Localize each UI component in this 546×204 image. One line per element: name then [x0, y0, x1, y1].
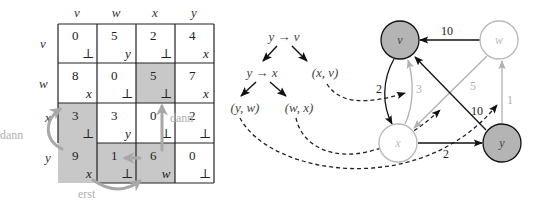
- cell-pred: ⊥: [199, 166, 211, 181]
- edge-x-v-weight: 3: [416, 82, 422, 96]
- node-x: x: [379, 124, 417, 162]
- cell-dist: 0: [72, 28, 79, 43]
- row-header-y: y: [43, 150, 51, 165]
- edge-y-v-weight: 10: [471, 104, 483, 118]
- cell-dist: 2: [150, 28, 157, 43]
- node-y-label: y: [498, 136, 505, 150]
- graph: 10 2 3 5 1 10 2 v w x y: [376, 21, 521, 162]
- figure: v w x y v w x y 0 ⊥ 5 y 2 ⊥ 4 x 8 x 0 ⊥: [0, 0, 546, 204]
- edge-v-x-weight: 2: [376, 82, 382, 96]
- cell-pred: ⊥: [82, 46, 94, 61]
- node-v: v: [381, 21, 419, 59]
- tree-left-child: y → x: [244, 65, 277, 80]
- tree-right-leaf: (x, v): [312, 65, 339, 80]
- cell-pred: x: [202, 86, 209, 101]
- col-header-v: v: [74, 5, 80, 20]
- node-y: y: [483, 124, 521, 162]
- cell-pred: x: [85, 166, 92, 181]
- edge-x-v: [405, 60, 412, 124]
- col-header-w: w: [112, 5, 121, 20]
- cell-pred: x: [85, 86, 92, 101]
- tree-edge: [263, 46, 277, 61]
- cell-dist: 5: [150, 68, 157, 83]
- edge-y-w-weight: 1: [507, 93, 513, 107]
- edge-v-x: [385, 59, 394, 124]
- cell-dist: 9: [72, 148, 79, 163]
- node-w-label: w: [495, 33, 503, 47]
- cell-dist: 0: [189, 148, 196, 163]
- cell-dist: 8: [72, 68, 79, 83]
- node-x-label: x: [394, 136, 401, 150]
- right-dann-label: dann: [170, 111, 193, 125]
- tree-leaf-yw: (y, w): [231, 100, 260, 115]
- cell-dist: 0: [150, 108, 157, 123]
- col-header-x: x: [151, 5, 158, 20]
- edge-w-x-weight: 5: [470, 79, 476, 93]
- cell-pred: ⊥: [121, 166, 133, 181]
- cell-pred: y: [123, 126, 131, 141]
- dashed-map-xv: [327, 84, 405, 101]
- cell-dist: 5: [111, 28, 118, 43]
- cell-pred: ⊥: [160, 46, 172, 61]
- cell-pred: y: [123, 46, 131, 61]
- cell-pred: ⊥: [121, 86, 133, 101]
- cell-dist: 3: [72, 108, 79, 123]
- decomposition-tree: y → v y → x (x, v) (y, w) (w, x): [231, 29, 497, 169]
- cell-dist: 6: [150, 148, 157, 163]
- tree-leaf-wx: (w, x): [285, 100, 314, 115]
- distance-matrix: v w x y v w x y 0 ⊥ 5 y 2 ⊥ 4 x 8 x 0 ⊥: [0, 5, 214, 201]
- column-headers: v w x y: [74, 5, 197, 20]
- cell-dist: 3: [111, 108, 118, 123]
- cell-pred: ⊥: [82, 126, 94, 141]
- cell-dist: 4: [189, 28, 196, 43]
- cell-pred: ⊥: [199, 126, 211, 141]
- tree-edge: [270, 82, 286, 96]
- tree-edge: [292, 46, 307, 61]
- bottom-erst-label: erst: [78, 187, 96, 201]
- row-header-v: v: [40, 36, 46, 51]
- dashed-map-wx: [296, 110, 440, 154]
- cell-dist: 7: [189, 68, 196, 83]
- row-headers: v w x y: [39, 36, 51, 165]
- left-dann-label: dann: [0, 128, 23, 142]
- edge-x-y-weight: 2: [443, 147, 449, 161]
- cell-dist: 0: [111, 68, 118, 83]
- cell-pred: x: [202, 46, 209, 61]
- tree-edge: [241, 82, 256, 96]
- node-v-label: v: [397, 33, 403, 47]
- edge-w-v-weight: 10: [441, 24, 453, 38]
- node-w: w: [480, 21, 518, 59]
- row-header-w: w: [39, 76, 48, 91]
- dashed-map-yw: [240, 105, 497, 169]
- tree-root: y → v: [266, 29, 299, 44]
- col-header-y: y: [189, 5, 197, 20]
- cell-pred: w: [162, 166, 171, 181]
- cell-dist: 1: [111, 148, 118, 163]
- cell-pred: ⊥: [160, 86, 172, 101]
